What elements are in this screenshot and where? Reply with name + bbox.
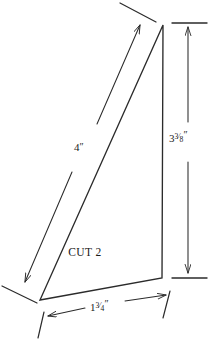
arrow-down-left-icon [25,172,72,282]
extension-line-base-left [38,312,44,338]
hypotenuse-dimension-label: 4″ [74,141,84,153]
cut-diagram-svg: 4″ 33⁄8″ 13⁄4″ CUT 2 [0,0,209,342]
triangle-path [40,25,163,300]
arrow-left-icon [48,308,85,316]
extension-line-bottom-left [2,286,37,303]
vertical-dimension-label-group: 33⁄8″ [166,128,202,146]
arrow-up-right-icon [97,25,140,124]
shape-label: CUT 2 [68,246,101,258]
triangle-outline [40,25,163,300]
arrow-right-icon [125,295,166,301]
extension-line-apex [120,3,156,22]
hypotenuse-dimension-label-group: 4″ [70,138,96,154]
base-dimension-label-group: 13⁄4″ [87,298,121,315]
diagram-canvas: 4″ 33⁄8″ 13⁄4″ CUT 2 [0,0,209,342]
vertical-extension-lines [172,23,207,278]
